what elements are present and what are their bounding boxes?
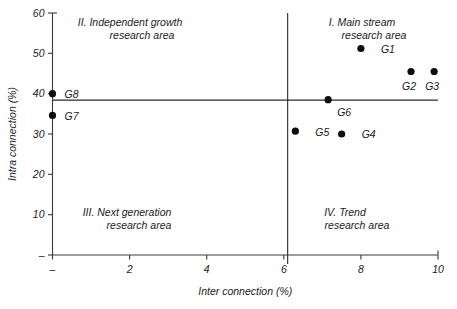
scatter-plot-canvas: –102030405060–246810 I. Main streamresea… [0,0,457,309]
data-point-label-g7: G7 [65,110,80,122]
y-tick-label-2: 20 [32,168,45,180]
y-tick-label-4: 40 [33,87,45,99]
quadrant-label-line1: IV. Trend [324,206,367,218]
y-tick-label-1: 10 [33,208,45,220]
y-axis-title: Intra connection (%) [6,87,18,181]
data-point-label-g8: G8 [65,88,79,100]
data-point-g8 [49,90,56,97]
data-point-g5 [292,128,299,135]
y-tick-label-0: – [38,249,45,261]
y-tick-label-6: 60 [33,7,45,19]
y-tick-label-3: 30 [33,128,45,140]
x-tick-label-4: 8 [358,263,364,275]
quadrant-label-independent-growth: II. Independent growthresearch area [78,16,183,41]
scatter-chart-figure: –102030405060–246810 I. Main streamresea… [0,0,457,309]
quadrant-label-line1: I. Main stream [329,16,396,28]
data-point-g3 [431,68,438,75]
data-point-label-g6: G6 [337,106,351,118]
x-tick-label-3: 6 [281,263,287,275]
quadrant-labels: I. Main streamresearch areaII. Independe… [78,16,407,231]
quadrant-label-main-stream: I. Main streamresearch area [329,16,407,41]
data-point-label-g5: G5 [315,126,329,138]
data-point-g4 [338,130,345,137]
x-tick-label-0: – [49,263,56,275]
data-point-label-g3: G3 [425,80,439,92]
data-point-g6 [325,96,332,103]
quadrant-label-line2: research area [325,219,390,231]
quadrant-label-line1: III. Next generation [83,206,172,218]
data-point-g2 [407,68,414,75]
data-point-g1 [357,45,364,52]
x-tick-label-2: 4 [204,263,210,275]
quadrant-label-line2: research area [110,29,175,41]
data-points: G1G2G3G4G5G6G7G8 [49,43,439,140]
quadrant-label-next-generation: III. Next generationresearch area [83,206,172,231]
data-point-label-g2: G2 [402,80,416,92]
x-axis-title: Inter connection (%) [198,285,292,297]
data-point-label-g4: G4 [362,128,376,140]
x-tick-label-5: 10 [432,263,444,275]
quadrant-label-line2: research area [107,219,172,231]
data-point-label-g1: G1 [381,43,395,55]
x-tick-label-1: 2 [126,263,133,275]
quadrant-label-line2: research area [342,29,407,41]
data-point-g7 [49,112,56,119]
y-tick-label-5: 50 [33,47,45,59]
quadrant-label-trend: IV. Trendresearch area [324,206,389,231]
quadrant-label-line1: II. Independent growth [78,16,183,28]
